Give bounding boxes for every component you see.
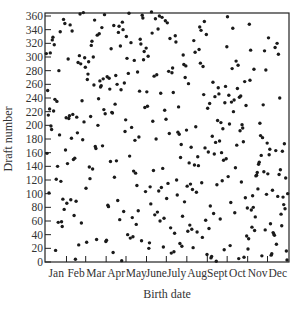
data-point [86,72,89,75]
data-point [133,139,136,142]
data-point [276,195,279,198]
data-point [174,40,177,43]
data-point [239,94,242,97]
data-point [283,142,286,145]
data-point [59,180,62,183]
data-point [254,215,257,218]
data-point [281,195,284,198]
data-point [275,243,278,246]
data-point [82,11,85,14]
data-point [206,107,209,110]
data-point [195,230,198,233]
data-point [111,251,114,254]
data-point [78,54,81,57]
x-tick-label: Dec [268,267,287,279]
y-tick-label: 220 [26,106,44,118]
data-point [124,118,127,121]
data-point [66,162,69,165]
data-point [159,92,162,95]
data-point [57,221,60,224]
x-tick-label: Feb [67,267,85,279]
data-point [109,47,112,50]
data-point [107,205,110,208]
data-point [127,12,130,15]
data-point [162,245,165,248]
data-point [263,228,266,231]
data-point [155,73,158,76]
data-point [75,115,78,118]
data-point [279,168,282,171]
data-point [92,83,95,86]
data-point [256,171,259,174]
data-point [49,124,52,127]
data-point [121,20,124,23]
data-point [49,51,52,54]
data-point [172,250,175,253]
data-point [54,249,57,252]
data-point [240,180,243,183]
data-point [76,131,79,134]
data-point [221,179,224,182]
data-point [193,51,196,54]
data-point [135,223,138,226]
scatter-chart: 0204060801001201401601802002202402602803… [0,0,306,310]
data-point [275,42,278,45]
data-point [144,46,147,49]
data-point [117,31,120,34]
data-point [238,129,241,132]
data-point [234,166,237,169]
data-point [78,12,81,15]
data-point [277,173,280,176]
data-point [273,46,276,49]
x-axis: JanFebMarAprMayJuneJulyAugSeptOctNovDec [49,256,287,280]
data-point [197,48,200,51]
data-point [178,133,181,136]
data-point [174,34,177,37]
data-point [164,117,167,120]
data-point [177,105,180,108]
data-point [245,234,248,237]
data-point [267,153,270,156]
data-point [68,23,71,26]
y-tick-label: 200 [26,119,44,131]
y-tick-label: 60 [32,215,44,227]
data-point [90,40,93,43]
data-point [52,109,55,112]
data-point [268,148,271,151]
data-point [115,83,118,86]
data-point [246,206,249,209]
data-point [166,182,169,185]
data-point [59,30,62,33]
data-point [93,18,96,21]
data-point [224,85,227,88]
data-point [250,225,253,228]
data-point [252,206,255,209]
data-point [199,29,202,32]
data-point [48,107,51,110]
data-point [282,203,285,206]
data-point [267,36,270,39]
data-point [103,112,106,115]
data-point [173,232,176,235]
data-point [236,63,239,66]
data-point [91,167,94,170]
data-point [101,77,104,80]
data-point [203,20,206,23]
data-point [183,76,186,79]
data-point [261,136,264,139]
data-point [237,257,240,260]
data-point [232,98,235,101]
data-point [160,186,163,189]
data-point [248,79,251,82]
data-point [129,41,132,44]
data-point [94,147,97,150]
data-point [203,146,206,149]
data-point [158,219,161,222]
data-point [241,126,244,129]
data-point [202,93,205,96]
data-point [215,183,218,186]
data-point [180,143,183,146]
y-axis: 0204060801001201401601802002202402602803… [26,10,51,268]
data-point [283,207,286,210]
data-point [219,217,222,220]
